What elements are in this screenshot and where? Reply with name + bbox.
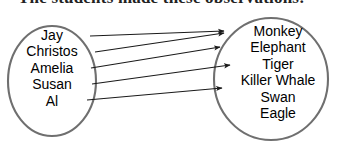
- left-item-4: Al: [12, 93, 92, 109]
- left-item-0: Jay: [12, 27, 92, 43]
- right-item-3: Killer Whale: [228, 72, 328, 88]
- left-item-2: Amelia: [12, 60, 92, 76]
- right-item-1: Elephant: [228, 39, 328, 55]
- left-set-labels: Jay Christos Amelia Susan Al: [12, 27, 92, 109]
- right-item-5: Eagle: [228, 105, 328, 121]
- left-item-1: Christos: [12, 43, 92, 59]
- right-item-4: Swan: [228, 89, 328, 105]
- arrow-jay-monkey: [90, 31, 224, 36]
- diagram-canvas: The students made these observations: Ja…: [0, 0, 337, 149]
- right-item-0: Monkey: [228, 23, 328, 39]
- arrow-susan-tiger: [92, 65, 230, 84]
- arrow-group: [87, 31, 230, 100]
- left-item-3: Susan: [12, 76, 92, 92]
- arrow-al-killerwhale: [87, 88, 222, 100]
- right-set-labels: Monkey Elephant Tiger Killer Whale Swan …: [228, 23, 328, 121]
- right-item-2: Tiger: [228, 56, 328, 72]
